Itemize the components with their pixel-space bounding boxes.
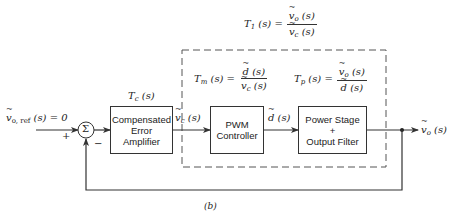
comp-line-2: Error — [112, 125, 171, 136]
input-v: v — [6, 112, 12, 123]
t1-lhs: T1 (s) = — [244, 18, 283, 31]
tm-equation: Tm (s) = d (s) vc (s) — [194, 66, 269, 93]
tm-denominator: vc (s) — [239, 79, 269, 93]
t1-fraction: vo (s) vc (s) — [287, 10, 317, 39]
compensated-error-amplifier-block: CompensatedErrorAmplifier — [110, 106, 173, 154]
d-s: (s) — [274, 112, 290, 123]
vo-s: (s) — [431, 124, 447, 135]
tp-fraction: vo (s) d (s) — [337, 66, 367, 93]
tp-denominator: d (s) — [339, 81, 366, 93]
comp-line-1: Compensated — [112, 114, 171, 125]
tc-rest: (s) — [139, 90, 155, 101]
input-label: vo, ref (s) = 0 — [6, 112, 68, 125]
input-rest: (s) = 0 — [30, 112, 67, 123]
tm-fraction: d (s) vc (s) — [239, 66, 269, 93]
pwm-line-1: PWM — [216, 119, 257, 130]
d-signal-label: d (s) — [268, 112, 291, 123]
plus-sign: + — [62, 130, 70, 141]
pwm-line-2: Controller — [216, 130, 257, 141]
vo-output-label: vo (s) — [421, 124, 447, 137]
figure-caption: (b) — [204, 201, 217, 211]
t1-denominator: vc (s) — [287, 25, 317, 39]
tp-lhs: Tp (s) = — [294, 73, 333, 86]
power-line-1: Power Stage — [305, 114, 359, 125]
vc-v: v — [175, 112, 181, 123]
tm-lhs: Tm (s) = — [194, 73, 235, 86]
vc-s: (s) — [185, 112, 201, 123]
vc-signal-label: vc (s) — [175, 112, 201, 125]
input-sub: o, ref — [12, 117, 31, 125]
pwm-controller-block: PWMController — [210, 106, 264, 154]
comp-line-3: Amplifier — [112, 136, 171, 147]
power-line-3: Output Filter — [305, 136, 359, 147]
minus-sign: − — [94, 138, 102, 149]
power-stage-output-filter-block: Power Stage+Output Filter — [298, 106, 367, 154]
vo-v: v — [421, 124, 427, 135]
tc-label: Tc (s) — [128, 90, 155, 103]
tp-equation: Tp (s) = vo (s) d (s) — [294, 66, 367, 93]
sigma-symbol: Σ — [82, 123, 89, 134]
tc-T: T — [128, 90, 135, 101]
t1-equation: T1 (s) = vo (s) vc (s) — [244, 10, 317, 39]
d-d: d — [268, 112, 274, 123]
power-line-2: + — [305, 125, 359, 136]
